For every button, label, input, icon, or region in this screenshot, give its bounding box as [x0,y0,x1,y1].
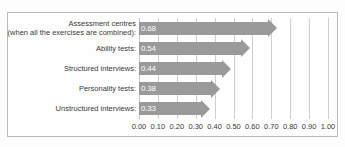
bar-arrow-head-icon [211,80,220,98]
bar-row: 0.54Ability tests: [139,42,328,55]
x-tick-label: 0.10 [151,121,166,133]
bar-row: 0.33Unstructured interviews: [139,102,328,115]
x-tick-label: 0.90 [302,121,317,133]
bar [139,22,268,35]
bar-arrow-head-icon [268,19,277,37]
bar-value-label: 0.54 [141,42,156,55]
category-label: Assessment centres(when all the exercise… [8,19,136,37]
bar-value-label: 0.33 [141,102,156,115]
category-label: Unstructured interviews: [56,104,136,113]
bar-value-label: 0.38 [141,82,156,95]
bar-rows: 0.68Assessment centres(when all the exer… [139,18,328,119]
gridline [328,18,329,119]
x-tick-label: 0.50 [226,121,241,133]
x-tick-label: 0.40 [207,121,222,133]
bar-arrow-head-icon [222,60,231,78]
bar-value-label: 0.68 [141,22,156,35]
x-tick-label: 0.70 [264,121,279,133]
bar-row: 0.38Personality tests: [139,82,328,95]
x-axis-tick-labels: 0.000.100.200.300.400.500.600.700.800.90… [139,121,328,133]
x-tick-label: 0.30 [188,121,203,133]
bar-row: 0.44Structured interviews: [139,62,328,75]
x-tick-label: 0.00 [132,121,147,133]
chart-figure: 0.68Assessment centres(when all the exer… [0,0,345,147]
x-tick-label: 0.20 [169,121,184,133]
bar-row: 0.68Assessment centres(when all the exer… [139,22,328,35]
bar-arrow-head-icon [241,39,250,57]
category-label: Personality tests: [79,84,136,93]
x-tick-label: 0.60 [245,121,260,133]
x-tick-label: 1.00 [321,121,336,133]
x-tick-label: 0.80 [283,121,298,133]
bar-value-label: 0.44 [141,62,156,75]
category-label: Structured interviews: [64,64,136,73]
bar-arrow-head-icon [201,100,210,118]
plot-area: 0.68Assessment centres(when all the exer… [139,18,328,119]
category-label: Ability tests: [96,44,136,53]
